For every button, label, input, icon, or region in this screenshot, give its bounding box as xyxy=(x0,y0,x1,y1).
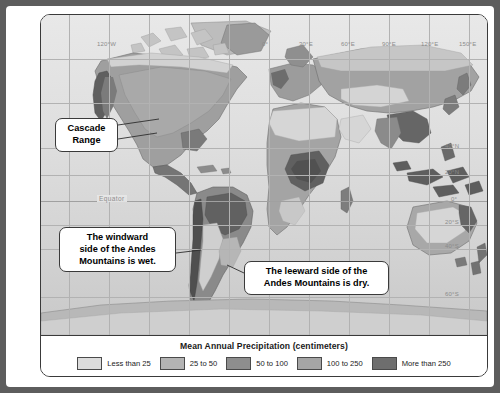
callout-windward-line3: Mountains is wet. xyxy=(66,256,169,268)
screenshot-root: 120°W 0° 30°E 60°E 90°E 120°E 150°E 40°N… xyxy=(0,0,500,393)
legend-label: Less than 25 xyxy=(107,359,151,368)
legend-label: More than 250 xyxy=(402,359,451,368)
figure-panel: 120°W 0° 30°E 60°E 90°E 120°E 150°E 40°N… xyxy=(40,14,488,377)
legend-item-100-to-250[interactable]: 100 to 250 xyxy=(297,357,363,370)
legend-items: Less than 25 25 to 50 50 to 100 100 to 2… xyxy=(41,357,487,370)
callout-cascade-line2: Range xyxy=(62,135,111,147)
equator-label: Equator xyxy=(97,195,127,202)
lat-label-0: 0° xyxy=(451,196,457,202)
gridline-lat xyxy=(41,103,487,104)
gridline-lat-20n xyxy=(41,175,487,176)
lon-label-60e: 60°E xyxy=(341,41,355,47)
gridline-lat-20s xyxy=(41,225,487,226)
callout-cascade-range[interactable]: Cascade Range xyxy=(55,118,118,152)
callout-windward-line2: side of the Andes xyxy=(66,244,169,256)
legend-label: 25 to 50 xyxy=(190,359,217,368)
legend-item-less-than-25[interactable]: Less than 25 xyxy=(77,357,151,370)
callout-leeward-andes[interactable]: The leeward side of the Andes Mountains … xyxy=(244,261,389,295)
legend-item-50-to-100[interactable]: 50 to 100 xyxy=(226,357,288,370)
lon-label-150e: 150°E xyxy=(459,41,476,47)
gridline-lat-60s xyxy=(41,297,487,298)
legend-swatch-icon xyxy=(372,357,397,370)
legend-swatch-icon xyxy=(297,357,322,370)
callout-leeward-line2: Andes Mountains is dry. xyxy=(251,278,382,290)
legend-item-25-to-50[interactable]: 25 to 50 xyxy=(160,357,217,370)
callout-leeward-line1: The leeward side of the xyxy=(251,266,382,278)
gridline-lat xyxy=(41,59,487,60)
lat-label-20s: 20°S xyxy=(445,219,459,225)
lon-label-30e: 30°E xyxy=(299,41,313,47)
lon-label-120w: 120°W xyxy=(97,41,116,47)
lon-label-120e: 120°E xyxy=(421,41,438,47)
callout-windward-line1: The windward xyxy=(66,232,169,244)
callout-windward-andes[interactable]: The windward side of the Andes Mountains… xyxy=(59,227,176,272)
legend-item-more-than-250[interactable]: More than 250 xyxy=(372,357,451,370)
lon-label-0: 0° xyxy=(262,41,268,47)
lon-label-90e: 90°E xyxy=(382,41,396,47)
legend-swatch-icon xyxy=(77,357,102,370)
lat-label-40s: 40°S xyxy=(445,243,459,249)
lat-label-40n: 40°N xyxy=(445,143,459,149)
legend-title: Mean Annual Precipitation (centimeters) xyxy=(41,341,487,351)
lat-label-60s: 60°S xyxy=(445,291,459,297)
callout-cascade-line1: Cascade xyxy=(62,123,111,135)
map-legend: Mean Annual Precipitation (centimeters) … xyxy=(41,335,487,376)
legend-label: 100 to 250 xyxy=(327,359,363,368)
legend-label: 50 to 100 xyxy=(256,359,288,368)
legend-swatch-icon xyxy=(226,357,251,370)
lat-label-20n: 20°N xyxy=(445,169,459,175)
legend-swatch-icon xyxy=(160,357,185,370)
